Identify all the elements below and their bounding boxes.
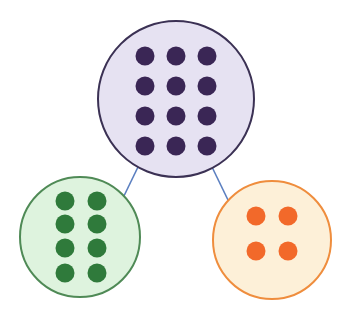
right-child-circle [213,181,331,299]
connector-left [122,167,138,200]
number-bond-diagram [0,0,349,311]
left-child-circle [20,177,140,297]
connector-right [212,167,228,200]
parent-circle [98,21,254,177]
